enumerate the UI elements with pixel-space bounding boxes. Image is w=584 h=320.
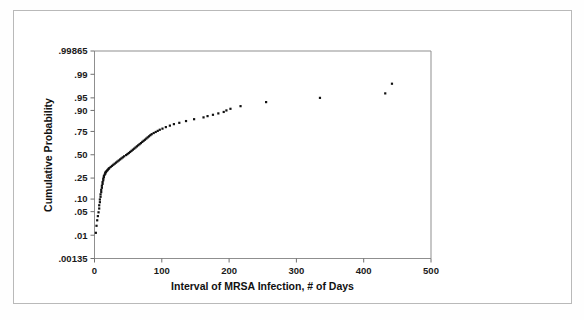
data-point-marker xyxy=(161,128,163,130)
data-point-marker xyxy=(202,116,204,118)
y-tick-label: .95 xyxy=(74,92,88,103)
x-tick-label: 200 xyxy=(221,265,237,276)
data-point-marker xyxy=(225,109,227,111)
data-point-marker xyxy=(169,125,171,127)
y-tick-label: .25 xyxy=(74,172,88,183)
data-points xyxy=(95,83,393,234)
y-tick-label: .10 xyxy=(74,193,87,204)
y-tick-label: .01 xyxy=(74,230,88,241)
data-point-marker xyxy=(165,126,167,128)
data-point-marker xyxy=(229,108,231,110)
figure-container: .00135.01.05.10.25.50.75.90.95.99.99865 … xyxy=(0,0,584,320)
data-point-marker xyxy=(206,115,208,117)
y-axis-ticks: .00135.01.05.10.25.50.75.90.95.99.99865 xyxy=(58,45,94,263)
data-point-marker xyxy=(98,207,100,209)
data-point-marker xyxy=(178,122,180,124)
data-point-marker xyxy=(173,123,175,125)
data-point-marker xyxy=(99,193,101,195)
y-tick-label: .00135 xyxy=(58,253,88,264)
data-point-marker xyxy=(96,219,98,221)
y-tick-label: .90 xyxy=(74,105,87,116)
data-point-marker xyxy=(99,201,101,203)
plot-frame xyxy=(95,51,432,259)
x-tick-label: 400 xyxy=(356,265,372,276)
x-axis-ticks: 0100200300400500 xyxy=(92,259,439,276)
data-point-marker xyxy=(391,83,393,85)
x-tick-label: 0 xyxy=(92,265,97,276)
data-point-marker xyxy=(153,132,155,134)
data-point-marker xyxy=(384,92,386,94)
data-point-marker xyxy=(95,232,97,234)
data-point-marker xyxy=(185,120,187,122)
x-tick-label: 100 xyxy=(154,265,170,276)
data-point-marker xyxy=(99,196,101,198)
data-point-marker xyxy=(99,198,101,200)
data-point-marker xyxy=(217,112,219,114)
data-point-marker xyxy=(193,118,195,120)
probability-plot: .00135.01.05.10.25.50.75.90.95.99.99865 … xyxy=(0,0,584,320)
data-point-marker xyxy=(239,105,241,107)
y-tick-label: .75 xyxy=(74,126,88,137)
data-point-marker xyxy=(265,101,267,103)
data-point-marker xyxy=(151,133,153,135)
data-point-marker xyxy=(98,204,100,206)
data-point-marker xyxy=(223,111,225,113)
x-tick-label: 300 xyxy=(288,265,304,276)
data-point-marker xyxy=(95,225,97,227)
x-axis-title: Interval of MRSA Infection, # of Days xyxy=(171,280,354,292)
y-axis-title: Cumulative Probability xyxy=(42,98,54,212)
data-point-marker xyxy=(97,211,99,213)
data-point-marker xyxy=(212,114,214,116)
data-point-marker xyxy=(157,130,159,132)
data-point-marker xyxy=(100,191,102,193)
y-tick-label: .99 xyxy=(74,69,87,80)
data-point-marker xyxy=(100,189,102,191)
data-point-marker xyxy=(101,187,103,189)
x-tick-label: 500 xyxy=(423,265,439,276)
data-point-marker xyxy=(319,97,321,99)
y-tick-label: .99865 xyxy=(58,45,88,56)
plot-frame-box xyxy=(95,51,432,259)
data-point-marker xyxy=(97,215,99,217)
data-point-marker xyxy=(101,185,103,187)
y-tick-label: .05 xyxy=(74,206,88,217)
data-point-marker xyxy=(155,131,157,133)
y-tick-label: .50 xyxy=(74,149,87,160)
data-point-marker xyxy=(123,155,125,157)
data-point-marker xyxy=(159,129,161,131)
